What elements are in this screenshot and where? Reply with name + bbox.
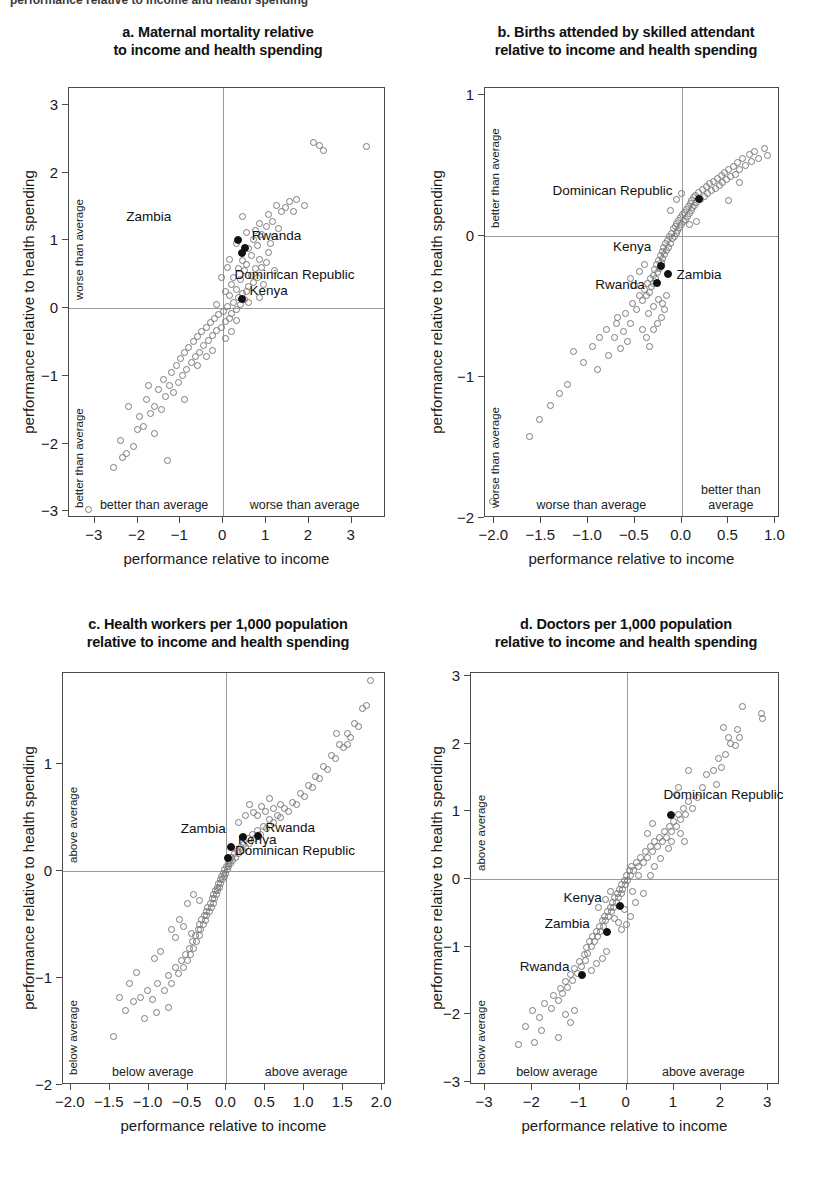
data-point (137, 994, 144, 1001)
highlight-point-zambia (603, 928, 611, 936)
data-point (685, 767, 692, 774)
data-point (602, 896, 609, 903)
highlight-point-zambia (234, 236, 242, 244)
y-tick-mark (464, 1013, 470, 1014)
data-point (301, 202, 308, 209)
data-point (126, 980, 133, 987)
x-tick-mark (94, 517, 95, 523)
data-point (344, 741, 351, 748)
data-point (147, 410, 154, 417)
country-label-rwanda: Rwanda (252, 228, 302, 243)
x-tick-mark (493, 517, 494, 523)
y-tick-mark (62, 104, 68, 105)
y-tick-mark (56, 1084, 62, 1085)
x-tick-mark (187, 1084, 188, 1090)
x-tick-label: 3 (763, 1093, 771, 1110)
data-point (678, 190, 685, 197)
data-point (177, 355, 184, 362)
x-tick-label: 2.0 (371, 1093, 392, 1110)
data-point (548, 1005, 555, 1012)
data-point (184, 957, 191, 964)
data-point (569, 977, 576, 984)
data-point (155, 386, 162, 393)
data-point (224, 264, 231, 271)
data-point (556, 390, 563, 397)
y-tick-mark (464, 810, 470, 811)
data-point (243, 229, 250, 236)
y-tick-mark (56, 763, 62, 764)
data-point (144, 987, 151, 994)
x-tick-label: 0 (622, 1093, 630, 1110)
data-point (153, 1009, 160, 1016)
x-tick-mark (179, 517, 180, 523)
y-tick-mark (56, 977, 62, 978)
data-point (627, 913, 634, 920)
x-axis-title: performance relative to income (470, 1117, 779, 1134)
figure-root: performance relative to income and healt… (0, 0, 816, 1184)
data-point (110, 1033, 117, 1040)
zero-vertical-line (682, 88, 683, 516)
data-point (559, 990, 566, 997)
y-axis-title: performance relative to health spending (20, 87, 37, 517)
data-point (367, 677, 374, 684)
panel-b: b. Births attended by skilled attendantr… (408, 0, 816, 592)
data-point (640, 890, 647, 897)
plot-area: Dominican RepublicKenyaZambiaRwandabette… (484, 87, 779, 517)
x-tick-mark (351, 517, 352, 523)
panel-title-line1: b. Births attended by skilled attendant (498, 24, 755, 40)
x-tick-label: −0.5 (172, 1093, 202, 1110)
data-point (515, 1041, 522, 1048)
x-tick-label: −2 (523, 1093, 540, 1110)
zero-vertical-line (223, 88, 224, 516)
data-point (529, 1007, 536, 1014)
panel-title-line2: relative to income and health spending (495, 42, 758, 58)
data-point (623, 921, 630, 928)
quadrant-label-upper-left: above average (475, 795, 487, 871)
quadrant-label-bottom-right: above average (230, 1065, 382, 1079)
data-point (165, 972, 172, 979)
data-point (567, 1019, 574, 1026)
data-point (222, 288, 229, 295)
quadrant-label-bottom-right: better thanaverage (686, 483, 776, 512)
country-label-kenya: Kenya (249, 283, 287, 298)
data-point (541, 1000, 548, 1007)
quadrant-label-lower-left: worse than average (489, 407, 501, 508)
highlight-point-rwanda (653, 279, 661, 287)
data-point (739, 155, 746, 162)
data-point (531, 1039, 538, 1046)
y-axis-title: performance relative to health spending (428, 672, 445, 1084)
data-point (141, 1015, 148, 1022)
data-point (194, 362, 201, 369)
quadrant-label-lower-left: better than average (73, 408, 85, 508)
x-tick-mark (626, 1084, 627, 1090)
data-point (181, 396, 188, 403)
data-point (650, 303, 657, 310)
data-point (673, 196, 680, 203)
data-point (755, 155, 762, 162)
x-tick-mark (634, 517, 635, 523)
data-point (580, 359, 587, 366)
x-tick-label: 0.0 (670, 526, 691, 543)
data-point (605, 352, 612, 359)
data-point (185, 344, 192, 351)
y-tick-mark (62, 239, 68, 240)
data-point (589, 343, 596, 350)
panel-title: d. Doctors per 1,000 populationrelative … (436, 616, 816, 651)
data-point (570, 348, 577, 355)
data-point (242, 812, 249, 819)
data-point (347, 734, 354, 741)
data-point (693, 218, 700, 225)
data-point (650, 326, 657, 333)
data-point (627, 320, 634, 327)
country-label-zambia: Zambia (545, 916, 590, 931)
x-tick-label: 1 (669, 1093, 677, 1110)
data-point (136, 413, 143, 420)
data-point (245, 299, 252, 306)
highlight-point-dominican-republic (695, 195, 703, 203)
data-point (246, 801, 253, 808)
data-point (639, 326, 646, 333)
data-point (266, 795, 273, 802)
data-point (682, 811, 689, 818)
data-point (647, 872, 654, 879)
data-point (188, 930, 195, 937)
